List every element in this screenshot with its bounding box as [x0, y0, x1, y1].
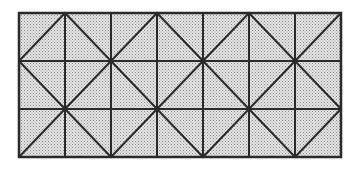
diamond-grid-diagram: [0, 0, 358, 169]
